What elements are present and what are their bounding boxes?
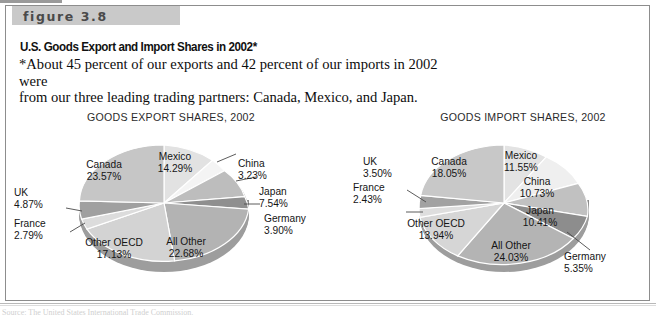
page-divider-rule-secondary	[0, 305, 656, 306]
export-label-china: China 3.23%	[238, 158, 267, 181]
export-label-france: France 2.79%	[14, 218, 46, 241]
export-label-japan: Japan 7.54%	[259, 186, 288, 209]
import-label-all-other: All Other 24.03%	[475, 240, 547, 263]
import-chart-title: GOODS IMPORT SHARES, 2002	[368, 111, 656, 123]
import-chart-panel: GOODS IMPORT SHARES, 2002	[342, 106, 652, 301]
export-label-all-other: All Other 22.68%	[150, 236, 222, 259]
figure-note-line-2: from our three leading trading partners:…	[19, 89, 449, 106]
import-label-uk: UK 3.50%	[363, 156, 392, 179]
import-label-other-oecd: Other OECD 13.94%	[395, 218, 477, 241]
figure-title: U.S. Goods Export and Import Shares in 2…	[20, 40, 257, 54]
export-label-other-oecd: Other OECD 17.13%	[74, 237, 154, 260]
figure-number-label: figure 3.8	[23, 9, 108, 24]
import-label-japan: Japan 10.41%	[510, 205, 570, 228]
export-chart-title: GOODS EXPORT SHARES, 2002	[6, 111, 336, 123]
export-chart-panel: GOODS EXPORT SHARES, 2002	[12, 106, 342, 301]
figure-note: *About 45 percent of our exports and 42 …	[19, 56, 449, 106]
import-label-france: France 2.43%	[353, 182, 385, 205]
figure-note-line-1: *About 45 percent of our exports and 42 …	[19, 56, 449, 89]
export-label-germany: Germany 3.90%	[264, 213, 306, 236]
page-divider-rule	[0, 303, 656, 304]
import-label-china: China 10.73%	[506, 176, 568, 199]
source-credit: Source: The United States International …	[2, 308, 193, 317]
import-label-mexico: Mexico 11.55%	[488, 150, 554, 173]
export-label-mexico: Mexico 14.29%	[142, 151, 208, 174]
export-label-uk: UK 4.87%	[14, 187, 43, 210]
export-label-canada: Canada 23.57%	[69, 159, 139, 182]
import-label-germany: Germany 5.35%	[564, 251, 606, 274]
page-scan-artifact	[0, 0, 62, 3]
import-label-canada: Canada 18.05%	[414, 156, 484, 179]
figure-frame: figure 3.8 U.S. Goods Export and Import …	[5, 5, 650, 301]
